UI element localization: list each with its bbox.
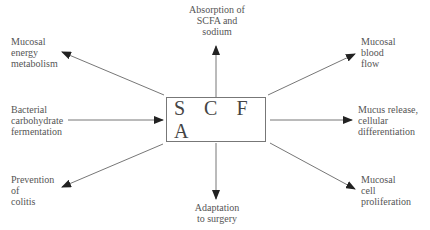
arrow-up-right bbox=[268, 54, 355, 95]
node-mucus-release: Mucus release, cellular differentiation bbox=[358, 104, 418, 137]
arrow-down-left bbox=[62, 144, 163, 187]
center-label: S C F A bbox=[167, 97, 265, 143]
scfa-center-box: S C F A bbox=[166, 97, 266, 142]
node-blood-flow: Mucosal blood flow bbox=[361, 36, 395, 69]
node-energy-metabolism: Mucosal energy metabolism bbox=[11, 36, 58, 69]
arrow-down-right bbox=[270, 143, 355, 189]
node-proliferation: Mucosal cell proliferation bbox=[361, 174, 411, 207]
node-colitis: Prevention of colitis bbox=[11, 174, 54, 207]
node-absorption: Absorption of SCFA and sodium bbox=[177, 4, 257, 37]
node-fermentation: Bacterial carbohydrate fermentation bbox=[11, 104, 63, 137]
node-adaptation: Adaptation to surgery bbox=[177, 202, 257, 224]
arrow-up-left bbox=[62, 52, 164, 95]
